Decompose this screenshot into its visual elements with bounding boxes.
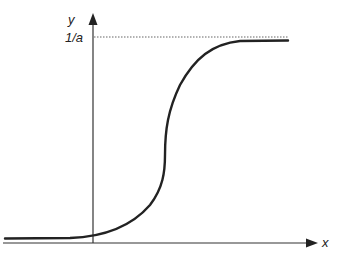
asymptote-label: 1/a (65, 30, 83, 45)
y-axis-arrow-icon (89, 13, 98, 25)
x-axis-arrow-icon (306, 239, 318, 248)
sigmoid-curve (5, 41, 288, 239)
x-axis-label: x (321, 235, 329, 250)
y-axis-label: y (67, 12, 76, 27)
sigmoid-diagram: y 1/a x (0, 0, 342, 259)
